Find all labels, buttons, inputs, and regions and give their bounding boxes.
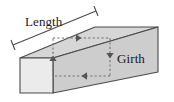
length-label: Length — [25, 15, 62, 28]
figure-container: Length Girth — [0, 0, 174, 102]
girth-label: Girth — [117, 52, 145, 65]
front-face — [20, 58, 53, 93]
